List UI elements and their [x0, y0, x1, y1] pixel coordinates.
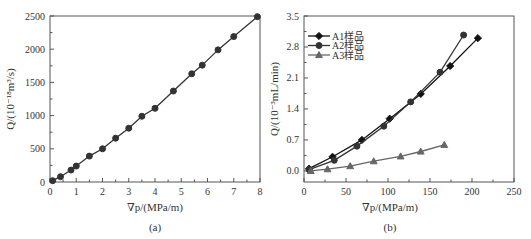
- x-tick-label: 3: [126, 186, 131, 197]
- y-tick-label: 2500: [25, 11, 45, 22]
- data-point: [50, 178, 56, 184]
- x-tick-label: 150: [423, 186, 438, 197]
- panel-caption-b: (b): [384, 221, 397, 234]
- x-axis-a: 012345678: [48, 178, 263, 197]
- data-point: [408, 99, 414, 105]
- x-axis-label-b: ∇p/(MPa/m): [362, 201, 418, 214]
- data-point: [354, 143, 360, 149]
- data-point: [461, 32, 467, 38]
- y-tick-label: 1500: [25, 77, 45, 88]
- legend-b: A1样品A2样品A3样品: [308, 30, 364, 61]
- data-point: [113, 135, 119, 141]
- data-series-main: [50, 14, 261, 184]
- data-point: [189, 71, 195, 77]
- data-point: [215, 47, 221, 53]
- series-group-a: [50, 14, 261, 184]
- x-tick-label: 4: [153, 186, 158, 197]
- x-axis-label-a: ∇p/(MPa/m): [127, 201, 183, 214]
- y-axis-label-a: Q/(10⁻¹⁸m³/s): [4, 68, 17, 130]
- y-tick-label: 3.5: [287, 11, 300, 22]
- data-point: [126, 125, 132, 131]
- data-point: [231, 34, 237, 40]
- x-tick-label: 2: [100, 186, 105, 197]
- y-tick-label: 500: [30, 143, 45, 154]
- y-tick-label: 2000: [25, 44, 45, 55]
- data-point: [254, 14, 260, 20]
- figure: 05001000150020002500 012345678 ∇p/(MPa/m…: [0, 0, 531, 239]
- x-tick-label: 200: [465, 186, 480, 197]
- y-axis-b: 0.00.71.42.12.83.5: [287, 11, 309, 177]
- x-tick-label: 5: [179, 186, 184, 197]
- data-point: [73, 163, 79, 169]
- data-point: [381, 123, 387, 129]
- y-tick-label: 0: [40, 177, 45, 188]
- data-point: [331, 157, 337, 163]
- data-point: [152, 105, 158, 111]
- x-tick-label: 8: [258, 186, 263, 197]
- data-point: [68, 167, 74, 173]
- y-tick-label: 1000: [25, 110, 45, 121]
- x-tick-label: 1: [74, 186, 79, 197]
- x-axis-b: 050100150200250: [302, 178, 522, 197]
- data-series-A2样品: [306, 32, 467, 173]
- x-tick-label: 50: [341, 186, 351, 197]
- data-series-A3样品: [307, 141, 447, 173]
- x-tick-label: 0: [48, 186, 53, 197]
- y-tick-label: 0.0: [287, 165, 300, 176]
- data-point: [437, 69, 443, 75]
- x-tick-label: 0: [302, 186, 307, 197]
- data-point: [199, 62, 205, 68]
- x-tick-label: 100: [381, 186, 396, 197]
- legend-label: A3样品: [332, 49, 364, 61]
- chart-panel-a: 05001000150020002500 012345678 ∇p/(MPa/m…: [4, 11, 263, 235]
- legend-marker-icon: [316, 43, 322, 49]
- data-point: [100, 146, 106, 152]
- legend-marker-icon: [315, 32, 322, 39]
- data-point: [441, 141, 448, 147]
- data-point: [170, 88, 176, 94]
- panel-caption-a: (a): [149, 221, 162, 234]
- chart-panel-b: 0.00.71.42.12.83.5 050100150200250 A1样品A…: [268, 11, 522, 235]
- x-tick-label: 7: [231, 186, 236, 197]
- data-point: [139, 113, 145, 119]
- y-tick-label: 0.7: [287, 134, 300, 145]
- y-axis-label-b: Q/(10⁻³mL/min): [268, 62, 281, 136]
- x-tick-label: 6: [205, 186, 210, 197]
- x-tick-label: 250: [507, 186, 522, 197]
- data-point: [58, 174, 64, 180]
- y-tick-label: 2.8: [287, 41, 300, 52]
- series-line: [53, 17, 258, 181]
- y-tick-label: 1.4: [287, 103, 300, 114]
- data-point: [86, 153, 92, 159]
- y-tick-label: 2.1: [287, 72, 300, 83]
